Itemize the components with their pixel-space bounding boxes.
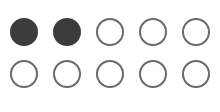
empty-circle-icon[interactable] bbox=[96, 60, 124, 88]
empty-circle-icon[interactable] bbox=[53, 60, 81, 88]
filled-circle-icon[interactable] bbox=[53, 18, 81, 46]
filled-circle-icon[interactable] bbox=[10, 18, 38, 46]
empty-circle-icon[interactable] bbox=[10, 60, 38, 88]
empty-circle-icon[interactable] bbox=[96, 18, 124, 46]
empty-circle-icon[interactable] bbox=[182, 60, 210, 88]
empty-circle-icon[interactable] bbox=[139, 60, 167, 88]
empty-circle-icon[interactable] bbox=[139, 18, 167, 46]
empty-circle-icon[interactable] bbox=[182, 18, 210, 46]
dot-rating-grid bbox=[10, 18, 210, 88]
